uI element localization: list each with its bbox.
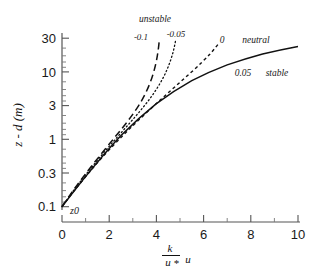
- y-tick-label-30: 30: [42, 31, 56, 46]
- y-axis-major-ticks: [62, 38, 69, 207]
- curve-neutral-0: [62, 43, 219, 207]
- x-axis-title-denominator: u: [165, 256, 171, 268]
- y-tick-label-3: 3: [49, 98, 56, 113]
- x-tick-label-2: 2: [106, 227, 113, 242]
- x-axis-title-variable: u: [185, 253, 191, 265]
- annotation-series-0: 0: [220, 35, 225, 45]
- annotation-z0: z0: [69, 205, 79, 216]
- annotation-series-0.05: 0.05: [235, 68, 252, 78]
- annotation-unstable: unstable: [139, 14, 171, 24]
- x-axis-title: k u * u: [162, 242, 191, 269]
- y-tick-label-1: 1: [49, 132, 56, 147]
- x-axis-title-denominator-sub: *: [173, 257, 179, 269]
- x-tick-label-8: 8: [247, 227, 254, 242]
- x-axis-ticks: [62, 215, 298, 222]
- x-axis-title-numerator: k: [168, 242, 174, 254]
- y-tick-label-0.1: 0.1: [38, 199, 56, 214]
- x-tick-label-4: 4: [153, 227, 160, 242]
- y-tick-label-0.3: 0.3: [38, 166, 56, 181]
- x-tick-label-6: 6: [200, 227, 207, 242]
- x-tick-label-0: 0: [58, 227, 65, 242]
- curve-unstable--0.05: [62, 40, 176, 207]
- annotation-series--0.1: -0.1: [134, 32, 148, 42]
- curve-unstable--0.1: [62, 41, 159, 207]
- chart-svg: 30 10 3 1 0.3 0.1 0 2 4 6 8 10 z - d (m): [0, 0, 315, 274]
- x-tick-label-10: 10: [291, 227, 305, 242]
- annotation-stable: stable: [266, 68, 289, 78]
- chart-figure: 30 10 3 1 0.3 0.1 0 2 4 6 8 10 z - d (m): [0, 0, 315, 274]
- annotation-neutral: neutral: [242, 35, 270, 45]
- y-tick-label-10: 10: [42, 65, 56, 80]
- y-axis-title: z - d (m): [10, 103, 25, 148]
- curve-stable-0.05: [62, 46, 298, 206]
- annotation-series--0.05: -0.05: [167, 29, 186, 39]
